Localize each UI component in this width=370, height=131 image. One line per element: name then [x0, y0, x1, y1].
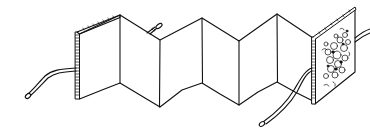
left-cover: [76, 15, 121, 99]
illustration-canvas: [0, 0, 370, 131]
ribbon-right-lower: [258, 68, 312, 127]
top-edge: [80, 14, 314, 41]
ribbon-left: [24, 68, 76, 99]
bottom-edge: [80, 82, 314, 107]
accordion-book-drawing: [0, 0, 370, 131]
ribbon-top: [147, 23, 163, 34]
ribbon-right-upper: [355, 29, 370, 42]
fold-lines: [120, 14, 278, 107]
right-cover: [312, 7, 356, 104]
